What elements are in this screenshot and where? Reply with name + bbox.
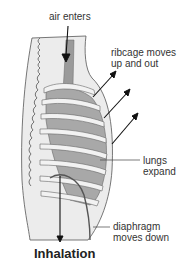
label-diaphragm-line2: moves down <box>113 232 169 243</box>
diagram-title: Inhalation <box>34 246 95 261</box>
label-air-enters: air enters <box>49 11 91 22</box>
label-ribcage-line2: up and out <box>111 58 158 69</box>
label-ribcage-line1: ribcage moves <box>111 47 176 58</box>
label-diaphragm-line1: diaphragm <box>113 221 160 232</box>
label-lungs-line1: lungs <box>143 155 167 166</box>
label-lungs-line2: expand <box>143 166 176 177</box>
